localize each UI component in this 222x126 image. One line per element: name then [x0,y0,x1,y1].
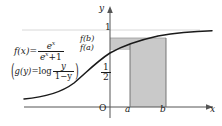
y-tick-fb: f(b) [80,35,94,43]
y-axis-arrow [107,6,113,13]
y-tick-half: 12 [100,63,112,82]
y-tick-fa: f(a) [80,44,94,52]
formula-f: f(x)=exex+1 [14,41,65,62]
half-denominator: 2 [101,72,111,82]
formula-g-lhs: g(y) [15,66,32,76]
x-tick-b: b [160,105,166,114]
formula-g-denominator: 1−y [53,71,74,81]
formula-g: (g(y)=logy1−y) [11,62,79,80]
formula-f-fraction: exex+1 [38,41,64,62]
formula-g-log: log [39,66,52,76]
y-axis-label: y [99,4,104,13]
formula-f-num-exp: x [52,40,55,46]
formula-g-equals: = [31,66,38,76]
formula-g-open-paren: ( [11,62,15,81]
origin-label: O [99,104,106,113]
formula-g-close-paren: ) [75,62,79,81]
formula-f-equals: = [29,46,37,56]
logistic-function-diagram: f(x)=exex+1 (g(y)=logy1−y) y x O 1 12 f(… [0,0,222,126]
formula-f-lhs: f(x) [14,46,29,56]
shaded-vertical-band [130,45,166,107]
formula-f-den-tail: +1 [48,52,61,62]
formula-g-fraction: y1−y [53,62,74,80]
formula-g-numerator: y [53,62,74,71]
y-tick-one: 1 [105,23,111,32]
formula-f-denominator: ex+1 [38,51,64,62]
half-numerator: 1 [101,63,111,72]
x-tick-a: a [125,105,130,114]
formula-f-numerator: ex [38,41,64,51]
half-fraction: 12 [101,63,111,82]
x-axis-label: x [210,105,215,114]
